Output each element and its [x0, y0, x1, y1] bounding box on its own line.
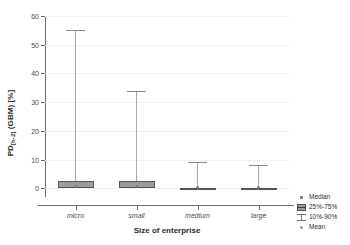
y-tick-label: 10	[31, 156, 39, 163]
chart-legend: Median25%-75%10%-90%Mean	[296, 192, 350, 232]
gridline	[45, 102, 289, 103]
x-axis-title: Size of enterprise	[45, 226, 289, 235]
legend-item: Mean	[296, 222, 350, 232]
gridline	[45, 160, 289, 161]
y-tick-label: 20	[31, 127, 39, 134]
y-tick-label: 40	[31, 70, 39, 77]
x-tick-mark	[259, 206, 260, 210]
legend-label: Median	[309, 194, 330, 201]
gridline	[45, 131, 289, 132]
x-tick-label-small: small	[128, 212, 144, 219]
whisker-line	[258, 165, 259, 188]
y-tick-label: 60	[31, 13, 39, 20]
whisker-cap-upper	[127, 91, 146, 92]
x-tick-label-large: large	[251, 212, 267, 219]
median-marker-icon	[296, 193, 307, 202]
whisker-cap-upper	[188, 162, 207, 163]
whisker-cap-upper	[249, 165, 268, 166]
y-tick-label: 0	[35, 185, 39, 192]
whisker-line	[136, 91, 137, 189]
x-tick-mark	[137, 206, 138, 210]
y-tick-mark	[41, 45, 45, 46]
y-tick-label: 30	[31, 99, 39, 106]
x-tick-label-medium: medium	[185, 212, 210, 219]
x-axis-ticks: microsmallmediumlarge	[45, 206, 289, 226]
x-tick-mark	[76, 206, 77, 210]
gridline	[45, 45, 289, 46]
gridline	[45, 73, 289, 74]
whisker-line	[75, 30, 76, 188]
plot-area: 0102030405060	[45, 16, 289, 197]
y-tick-mark	[41, 131, 45, 132]
y-tick-mark	[41, 160, 45, 161]
legend-item: Median	[296, 192, 350, 202]
x-tick-mark	[198, 206, 199, 210]
y-tick-label: 50	[31, 41, 39, 48]
whisker-marker-icon	[296, 213, 307, 222]
legend-label: Mean	[309, 224, 325, 231]
legend-item: 25%-75%	[296, 202, 350, 212]
legend-label: 25%-75%	[309, 204, 337, 211]
mean-marker-icon	[296, 223, 307, 232]
x-tick-label-micro: micro	[67, 212, 84, 219]
legend-item: 10%-90%	[296, 212, 350, 222]
y-axis-title-subscript: [h-2]	[10, 131, 16, 145]
whisker-cap-upper	[66, 30, 85, 31]
legend-label: 10%-90%	[309, 214, 337, 221]
y-tick-mark	[41, 73, 45, 74]
y-axis-title-prefix: PD	[6, 145, 15, 156]
box-marker-icon	[296, 203, 307, 212]
whisker-line	[197, 162, 198, 189]
y-tick-mark	[41, 188, 45, 189]
gridline	[45, 16, 289, 17]
y-axis-title-suffix: (GBM) [%]	[6, 89, 15, 131]
boxplot-chart: PD[h-2] (GBM) [%] 0102030405060 microsma…	[0, 0, 350, 245]
y-tick-mark	[41, 16, 45, 17]
y-axis-title: PD[h-2] (GBM) [%]	[6, 89, 17, 156]
y-tick-mark	[41, 102, 45, 103]
